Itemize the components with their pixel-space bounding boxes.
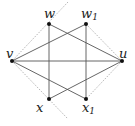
label-x1: x1 [82, 100, 95, 116]
node-w1 [84, 22, 88, 26]
dotted-line-w-v [12, 2, 68, 61]
edges [12, 24, 122, 99]
edge-w-u [49, 24, 122, 61]
dotted-line-u-x1 [86, 61, 122, 99]
node-x [47, 97, 51, 101]
label-w1: w1 [81, 6, 98, 22]
dotted-line-w1-u [86, 24, 122, 61]
node-w [47, 22, 51, 26]
dotted-lines [12, 2, 122, 119]
label-u: u [119, 46, 127, 61]
label-v: v [6, 46, 14, 61]
graph-diagram: w w1 v u x x1 [0, 0, 135, 126]
label-w: w [44, 6, 55, 21]
label-x: x [36, 100, 44, 115]
edge-x-u [49, 61, 122, 99]
